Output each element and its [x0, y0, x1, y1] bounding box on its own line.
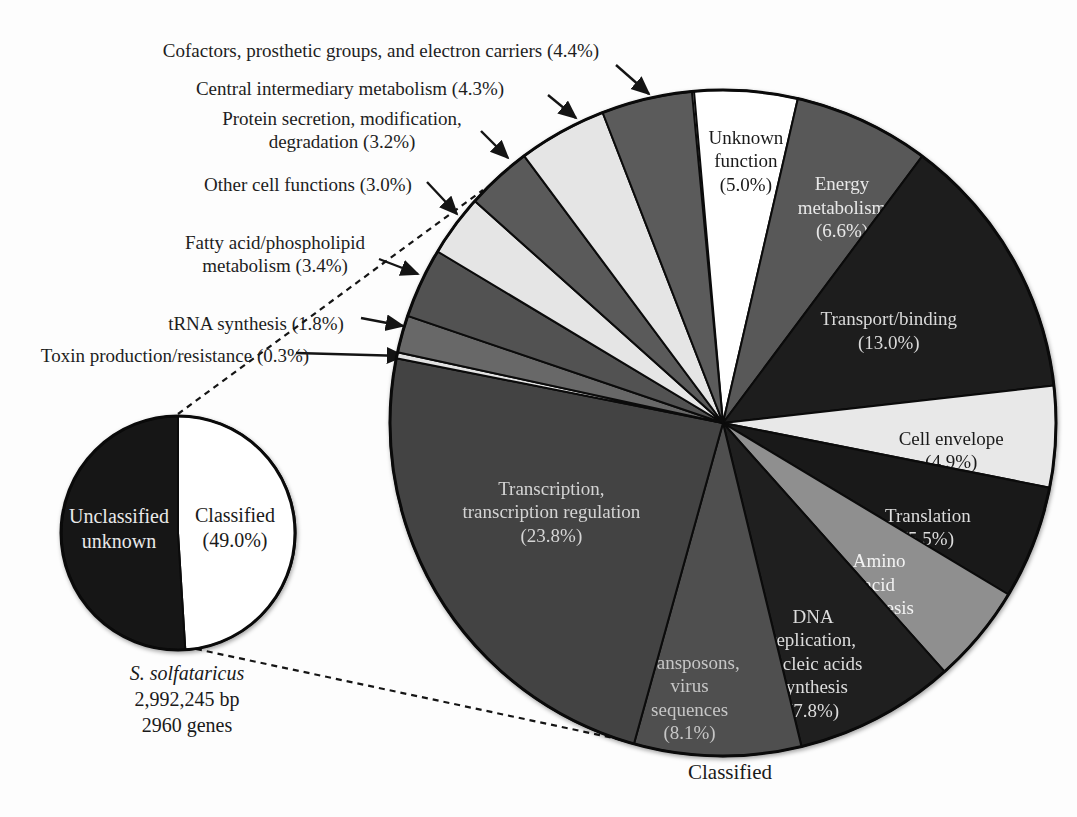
genome-caption: S. solfataricus 2,992,245 bp 2960 genes	[130, 660, 244, 738]
callout-arrow-3	[427, 182, 457, 214]
callout-arrow-5	[361, 318, 403, 326]
classified-footer-label: Classified	[688, 760, 772, 785]
callout-arrow-1	[548, 95, 576, 118]
callout-arrow-6	[296, 353, 404, 356]
label-classified-pct: Classified (49.0%)	[195, 503, 275, 553]
label-protein-secretion: Protein secretion, modification, degrada…	[222, 107, 462, 153]
callout-arrow-4	[379, 259, 418, 274]
callout-arrow-2	[481, 131, 508, 158]
organism-name: S. solfataricus	[130, 660, 244, 686]
label-trna-synthesis: tRNA synthesis (1.8%)	[168, 312, 344, 335]
label-fatty-acid: Fatty acid/phospholipid metabolism (3.4%…	[185, 231, 365, 277]
gene-count: 2960 genes	[130, 712, 244, 738]
label-cofactors: Cofactors, prosthetic groups, and electr…	[163, 39, 599, 62]
classified-pie: Unknownfunction(5.0%)Energymetabolism(6.…	[390, 90, 1056, 756]
genome-size: 2,992,245 bp	[130, 686, 244, 712]
label-central-intermediary: Central intermediary metabolism (4.3%)	[196, 77, 504, 100]
callout-arrow-0	[616, 65, 649, 94]
figure-gene-classification: Unknownfunction(5.0%)Energymetabolism(6.…	[0, 0, 1077, 817]
label-other-cell-functions: Other cell functions (3.0%)	[204, 173, 412, 196]
label-unclassified-unknown: Unclassified unknown	[69, 504, 169, 554]
label-toxin-production: Toxin production/resistance (0.3%)	[41, 344, 309, 367]
